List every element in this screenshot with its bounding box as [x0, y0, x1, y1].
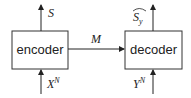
- decoder-input-label: YN: [133, 76, 146, 91]
- decoder-output-label: Sy: [133, 9, 146, 27]
- svg-text:Sy: Sy: [133, 10, 143, 26]
- encoder-block: encoder: [12, 31, 68, 69]
- decoder-block: decoder: [125, 31, 182, 69]
- decoder-label: decoder: [130, 42, 178, 57]
- block-diagram: encoder decoder S XN M Sy YN: [0, 0, 191, 98]
- encoder-output-label: S: [48, 6, 54, 20]
- message-label: M: [90, 32, 102, 46]
- encoder-label: encoder: [17, 42, 65, 57]
- encoder-input-label: XN: [46, 76, 60, 91]
